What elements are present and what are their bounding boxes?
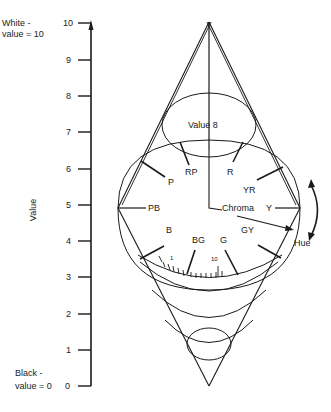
arrowhead-icon xyxy=(89,20,94,30)
side-labels: White - value = 10 Black - value = 0 Val… xyxy=(2,18,52,391)
tick-label-8: 8 xyxy=(66,91,71,101)
tick-label-1: 1 xyxy=(66,345,71,355)
hue-label-rp: RP xyxy=(185,167,198,177)
white-label-line1: White - xyxy=(2,18,31,28)
tick-label-0: 0 xyxy=(65,381,70,391)
chroma-arrowhead-icon xyxy=(285,225,294,231)
value-axis-title: Value xyxy=(28,199,38,221)
munsell-color-solid-diagram: 10 9 8 7 6 5 4 3 2 1 0 White - value = 1… xyxy=(0,0,331,412)
hue-label-g: G xyxy=(220,235,227,245)
value-tick-labels: 10 9 8 7 6 5 4 3 2 1 0 xyxy=(63,18,73,391)
tick-label-10: 10 xyxy=(63,18,73,28)
tick-label-4: 4 xyxy=(66,236,71,246)
tick-label-6: 6 xyxy=(66,164,71,174)
value-8-label: Value 8 xyxy=(188,120,218,130)
hue-label-p: P xyxy=(168,177,174,187)
black-label-line1: Black - xyxy=(15,368,43,378)
tick-label-5: 5 xyxy=(66,200,71,210)
value-axis xyxy=(78,20,94,386)
chroma-scale-end: 10 xyxy=(211,256,218,262)
tick-label-9: 9 xyxy=(66,55,71,65)
hue-label-yr: YR xyxy=(243,185,256,195)
chroma-scale-start: 1 xyxy=(170,255,174,261)
hue-label-r: R xyxy=(227,167,234,177)
tick-label-7: 7 xyxy=(66,127,71,137)
hue-label-b: B xyxy=(166,225,172,235)
white-label-line2: value = 10 xyxy=(2,29,44,39)
hue-label-y: Y xyxy=(266,203,272,213)
hue-label: Hue xyxy=(294,238,311,248)
tick-label-2: 2 xyxy=(66,309,71,319)
hue-arrow xyxy=(308,179,318,241)
black-label-line2: value = 0 xyxy=(15,381,52,391)
hue-arrow-up-icon xyxy=(308,179,315,188)
hue-label-pb: PB xyxy=(148,203,160,213)
chroma-label: Chroma xyxy=(222,203,254,213)
hue-label-bg: BG xyxy=(192,235,205,245)
hue-label-gy: GY xyxy=(241,225,254,235)
tick-label-3: 3 xyxy=(66,272,71,282)
